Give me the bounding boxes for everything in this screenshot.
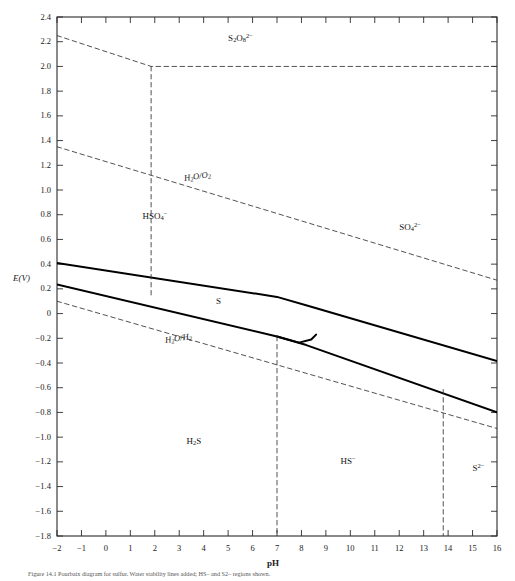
y-tick-label: 0.8 [17, 209, 51, 219]
y-tick-label: −0.6 [17, 382, 51, 392]
y-tick-label: 0.4 [17, 259, 51, 269]
series-path-5 [277, 335, 316, 343]
series-path-1 [57, 147, 497, 280]
y-tick-label: −1.8 [17, 531, 51, 541]
y-tick-label: 2.2 [17, 36, 51, 46]
y-tick-label: 0.6 [17, 234, 51, 244]
x-axis-title: pH [267, 558, 279, 568]
y-tick-label: −0.4 [17, 358, 51, 368]
y-tick-label: 1.2 [17, 160, 51, 170]
figure-caption: Figure 14.1 Pourbaix diagram for sulfur.… [28, 570, 498, 578]
chart-canvas [0, 0, 515, 581]
y-tick-label: 2.0 [17, 61, 51, 71]
region-label: S2O82− [228, 32, 253, 43]
y-axis-title: E(V) [13, 273, 30, 283]
y-tick-label: 1.8 [17, 86, 51, 96]
y-tick-label: −1.4 [17, 481, 51, 491]
pourbaix-diagram-figure: −2−1012345678910111213141516−1.8−1.6−1.4… [0, 0, 515, 581]
y-tick-label: −0.2 [17, 333, 51, 343]
y-tick-label: 1.4 [17, 135, 51, 145]
y-tick-label: −1.0 [17, 432, 51, 442]
region-label: HSO4− [143, 210, 168, 221]
y-tick-label: 1.6 [17, 110, 51, 120]
y-tick-label: 0 [17, 308, 51, 318]
y-tick-label: 2.4 [17, 12, 51, 22]
y-tick-label: −0.8 [17, 407, 51, 417]
region-label: S2− [473, 462, 485, 473]
y-tick-label: −1.2 [17, 456, 51, 466]
y-tick-label: 1.0 [17, 185, 51, 195]
series-path-0 [57, 36, 497, 67]
region-label: SO42− [399, 221, 421, 232]
y-tick-label: 0.2 [17, 283, 51, 293]
region-label: H2S [187, 436, 202, 446]
data-series-group [57, 36, 497, 536]
region-label: S [216, 296, 221, 306]
region-label: HS− [341, 455, 356, 466]
x-tick-label: 16 [483, 543, 511, 553]
y-tick-label: −1.6 [17, 506, 51, 516]
